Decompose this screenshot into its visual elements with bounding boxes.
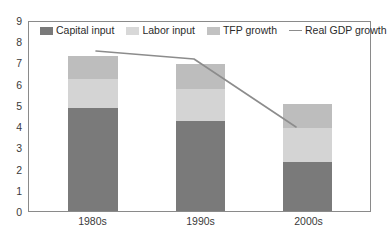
legend-entry-real-gdp-growth[interactable]: Real GDP growth [289,25,387,36]
legend-label: Capital input [56,25,114,36]
bar-segment-tfp-growth[interactable] [176,64,225,89]
y-tick-label: 9 [16,16,22,27]
chart-legend: Capital input Labor input TFP growth Rea… [40,23,387,38]
y-axis: 9 8 7 6 5 4 3 2 1 0 [0,21,26,212]
x-tick-label-2000s: 2000s [294,216,323,227]
bar-segment-labor-input[interactable] [283,128,332,162]
x-axis: 1980s 1990s 2000s [28,214,371,234]
y-tick-label: 6 [16,79,22,90]
y-tick-label: 4 [16,122,22,133]
y-tick-label: 1 [16,186,22,197]
y-tick-label: 8 [16,37,22,48]
y-tick-label: 3 [16,143,22,154]
y-tick-label: 5 [16,101,22,112]
bar-stack-1990s[interactable] [176,64,225,211]
bar-stack-1980s[interactable] [68,56,117,211]
x-tick-label-1990s: 1990s [186,216,215,227]
legend-entry-labor-input[interactable]: Labor input [126,25,195,36]
y-tick-label: 7 [16,58,22,69]
legend-entry-capital-input[interactable]: Capital input [40,25,114,36]
bar-segment-tfp-growth[interactable] [283,104,332,128]
y-tick-label: 2 [16,164,22,175]
bar-segment-capital-input[interactable] [176,121,225,211]
bar-segment-labor-input[interactable] [68,79,117,108]
legend-label: Labor input [142,25,195,36]
line-swatch-icon [289,27,302,35]
capital-swatch-icon [40,27,53,35]
legend-label: TFP growth [223,25,277,36]
bar-segment-capital-input[interactable] [68,108,117,211]
labor-swatch-icon [126,27,139,35]
legend-label: Real GDP growth [305,25,387,36]
legend-entry-tfp-growth[interactable]: TFP growth [207,25,277,36]
bars-layer [29,22,370,211]
y-tick-label: 0 [16,207,22,218]
bar-segment-labor-input[interactable] [176,89,225,121]
x-tick-label-1980s: 1980s [78,216,107,227]
bar-segment-tfp-growth[interactable] [68,56,117,79]
bar-stack-2000s[interactable] [283,104,332,211]
tfp-swatch-icon [207,27,220,35]
bar-segment-capital-input[interactable] [283,162,332,211]
